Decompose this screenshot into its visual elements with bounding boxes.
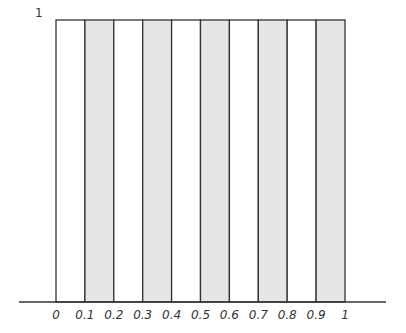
unit-square-partition-diagram: [0, 0, 406, 333]
bar-0-0.1: [56, 20, 85, 302]
x-tick-label: 0.6: [220, 308, 239, 322]
x-tick-label: 0.1: [75, 308, 94, 322]
bar-0.8-0.9: [287, 20, 316, 302]
x-tick-label: 0.2: [104, 308, 123, 322]
x-tick-label: 0.5: [191, 308, 210, 322]
x-tick-label: 0.8: [278, 308, 297, 322]
x-tick-label: 0.7: [249, 308, 268, 322]
bars-group: [56, 20, 345, 302]
bar-0.2-0.3: [114, 20, 143, 302]
bar-0.7-0.8: [258, 20, 287, 302]
y-axis-top-label: 1: [35, 6, 43, 20]
bar-0.5-0.6: [201, 20, 230, 302]
x-tick-label: 1: [341, 308, 349, 322]
x-tick-label: 0.9: [307, 308, 326, 322]
x-tick-label: 0.3: [133, 308, 152, 322]
bar-0.9-1: [316, 20, 345, 302]
x-tick-label: 0: [52, 308, 60, 322]
bar-0.4-0.5: [172, 20, 201, 302]
x-tick-label: 0.4: [162, 308, 181, 322]
bar-0.1-0.2: [85, 20, 114, 302]
bar-0.3-0.4: [143, 20, 172, 302]
bar-0.6-0.7: [229, 20, 258, 302]
